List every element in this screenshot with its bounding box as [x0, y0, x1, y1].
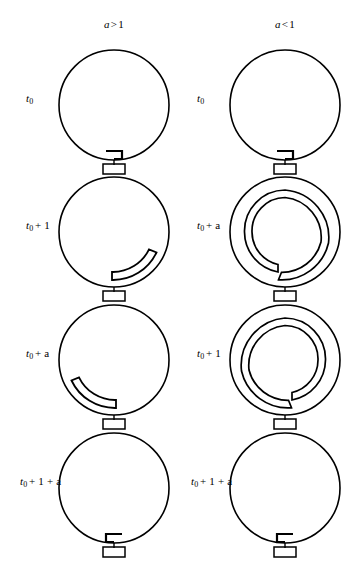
- coupler-box: [103, 164, 125, 174]
- row-label-left-0: t0: [26, 92, 36, 104]
- ring-circle: [230, 433, 340, 543]
- ring-circle: [230, 50, 340, 160]
- label-rest: [33, 92, 36, 104]
- label-rest: [204, 92, 207, 104]
- seed-pulse-hook-icon: [106, 151, 122, 159]
- ring-circle: [230, 305, 340, 415]
- ring-cell-left-3: [44, 431, 184, 557]
- ring-cell-right-3: [215, 431, 355, 557]
- header-num-right: 1: [289, 18, 295, 30]
- header-op-right: <: [281, 18, 290, 30]
- coupler-box: [103, 291, 125, 301]
- header-op-left: >: [110, 18, 119, 30]
- seed-pulse-hook-icon: [106, 534, 122, 542]
- header-var-left: a: [104, 18, 110, 30]
- column-header-a-gt-1: a>1: [74, 18, 154, 30]
- pulse-spiral-band: [244, 190, 328, 280]
- pulse-band-arc: [112, 249, 157, 280]
- ring-circle: [59, 305, 169, 415]
- coupler-box: [103, 419, 125, 429]
- label-sub: 0: [200, 97, 204, 106]
- label-sub: 0: [29, 97, 33, 106]
- ring-cell-right-0: [215, 48, 355, 174]
- row-label-right-0: t0: [197, 92, 207, 104]
- ring-cell-left-0: [44, 48, 184, 174]
- label-sub: 0: [200, 224, 204, 233]
- ring-circle: [59, 50, 169, 160]
- coupler-box: [103, 547, 125, 557]
- coupler-box: [274, 419, 296, 429]
- seed-pulse-hook-icon: [277, 534, 293, 542]
- label-sub: 0: [23, 480, 27, 489]
- ring-evolution-figure: a>1 a<1 t0 t0+ 1 t0+ a t0+ 1 + a t0 t0+ …: [0, 0, 359, 570]
- coupler-box: [274, 291, 296, 301]
- ring-cell-left-1: [44, 175, 184, 301]
- label-sub: 0: [29, 352, 33, 361]
- header-num-left: 1: [118, 18, 124, 30]
- ring-cell-right-1: [215, 175, 355, 301]
- ring-cell-left-2: [44, 303, 184, 429]
- ring-cell-right-2: [215, 303, 355, 429]
- header-var-right: a: [275, 18, 281, 30]
- label-sub: 0: [194, 480, 198, 489]
- label-sub: 0: [200, 352, 204, 361]
- column-header-a-lt-1: a<1: [245, 18, 325, 30]
- pulse-spiral-band: [241, 318, 325, 408]
- seed-pulse-hook-icon: [277, 151, 293, 159]
- ring-circle: [59, 177, 169, 287]
- label-sub: 0: [29, 224, 33, 233]
- pulse-band-arc: [72, 377, 117, 408]
- coupler-box: [274, 547, 296, 557]
- coupler-box: [274, 164, 296, 174]
- ring-circle: [230, 177, 340, 287]
- ring-circle: [59, 433, 169, 543]
